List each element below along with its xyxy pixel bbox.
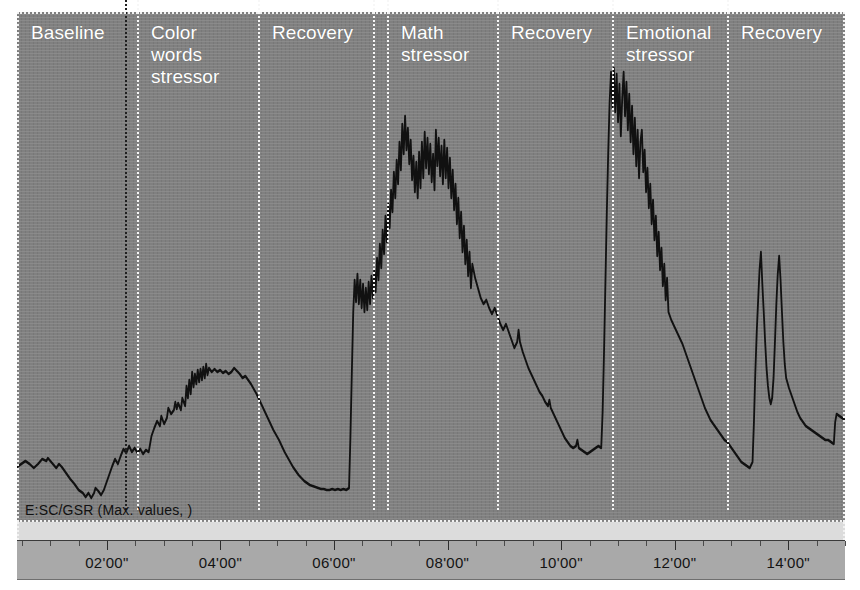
phase-divider-1: [137, 0, 139, 510]
axis-tick-minor-630: [590, 541, 591, 546]
phase-label-color-words-stressor: Color words stressor: [151, 22, 219, 88]
axis-tick-minor-750: [703, 541, 704, 546]
phase-label-recovery-3: Recovery: [741, 22, 822, 44]
gsr-chart-screenshot: BaselineColor words stressorRecoveryMath…: [0, 0, 860, 590]
phase-divider-2: [258, 0, 260, 510]
axis-tick-major-600: [561, 541, 562, 550]
axis-tick-minor-870: [817, 541, 818, 546]
series-caption: E:SC/GSR (Max. values, ): [25, 502, 192, 518]
axis-tick-label-2: 06'00": [312, 554, 355, 571]
axis-tick-minor-450: [419, 541, 420, 546]
axis-tick-major-720: [675, 541, 676, 550]
axis-tick-minor-540: [504, 541, 505, 546]
axis-tick-minor-180: [164, 541, 165, 546]
phase-label-math-stressor: Math stressor: [401, 22, 469, 66]
axis-tick-major-480: [448, 541, 449, 550]
axis-tick-minor-210: [192, 541, 193, 546]
axis-tick-minor-780: [731, 541, 732, 546]
phase-divider-7: [727, 0, 729, 510]
gsr-signal-path: [17, 68, 845, 498]
axis-tick-major-120: [107, 541, 108, 550]
axis-tick-minor-810: [760, 541, 761, 546]
axis-tick-major-840: [788, 541, 789, 550]
axis-tick-minor-900: [845, 541, 846, 546]
axis-tick-major-360: [334, 541, 335, 550]
phase-divider-0: [125, 0, 127, 510]
axis-tick-minor-420: [391, 541, 392, 546]
time-axis-band: 02'00"04'00"06'00"08'00"10'00"12'00"14'0…: [17, 540, 845, 580]
axis-tick-minor-150: [135, 541, 136, 546]
axis-tick-label-3: 08'00": [426, 554, 469, 571]
axis-tick-minor-30: [22, 541, 23, 546]
axis-tick-minor-270: [249, 541, 250, 546]
baseline-strip: [17, 522, 845, 540]
axis-tick-minor-570: [533, 541, 534, 546]
axis-tick-label-1: 04'00": [199, 554, 242, 571]
phase-label-emotional-stressor: Emotional stressor: [626, 22, 711, 66]
axis-tick-minor-330: [306, 541, 307, 546]
axis-tick-minor-300: [277, 541, 278, 546]
axis-tick-minor-660: [618, 541, 619, 546]
phase-label-recovery-1: Recovery: [272, 22, 353, 44]
phase-divider-3: [373, 0, 375, 510]
phase-divider-5: [497, 0, 499, 510]
axis-tick-minor-60: [50, 541, 51, 546]
axis-tick-label-5: 12'00": [653, 554, 696, 571]
axis-tick-minor-390: [362, 541, 363, 546]
axis-tick-label-0: 02'00": [85, 554, 128, 571]
phase-label-baseline: Baseline: [31, 22, 105, 44]
axis-tick-minor-510: [476, 541, 477, 546]
axis-tick-label-4: 10'00": [539, 554, 582, 571]
axis-tick-minor-690: [646, 541, 647, 546]
signal-trace-svg: [17, 12, 845, 522]
phase-label-recovery-2: Recovery: [511, 22, 592, 44]
phase-divider-4: [387, 0, 389, 510]
axis-tick-major-240: [220, 541, 221, 550]
axis-tick-minor-90: [79, 541, 80, 546]
axis-tick-label-6: 14'00": [767, 554, 810, 571]
phase-divider-6: [612, 0, 614, 510]
